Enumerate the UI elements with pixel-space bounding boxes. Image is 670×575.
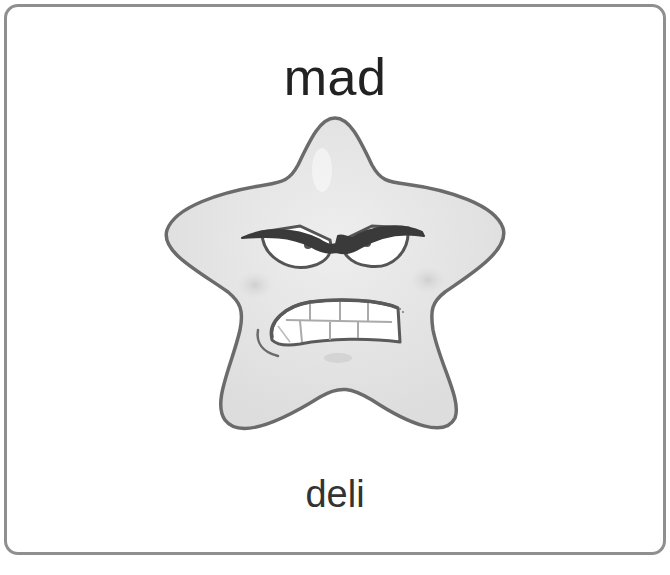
card-subtitle: deli [7,472,663,516]
word-card: mad deli [4,4,666,555]
card-title: mad [7,47,663,107]
